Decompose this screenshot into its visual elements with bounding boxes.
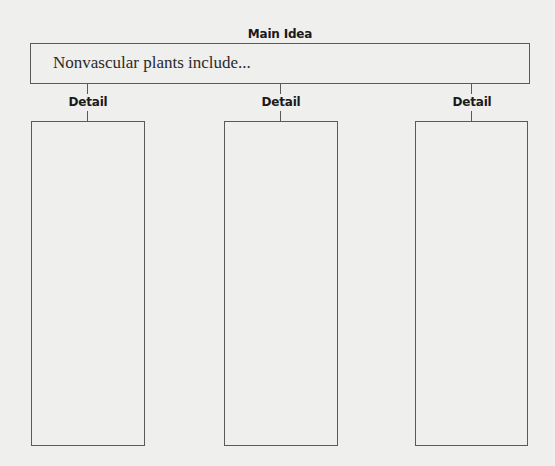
detail-label: Detail [69,95,108,109]
connector-line [280,84,281,94]
detail-box-2[interactable] [224,121,338,446]
connector-line [471,111,472,121]
main-idea-text: Nonvascular plants include... [53,53,251,73]
detail-label: Detail [453,95,492,109]
detail-box-3[interactable] [415,121,528,446]
connector-line [87,111,88,121]
connector-line [280,111,281,121]
connector-line [471,84,472,94]
detail-box-1[interactable] [31,121,145,446]
detail-label: Detail [262,95,301,109]
main-idea-label: Main Idea [248,27,312,41]
connector-line [87,84,88,94]
